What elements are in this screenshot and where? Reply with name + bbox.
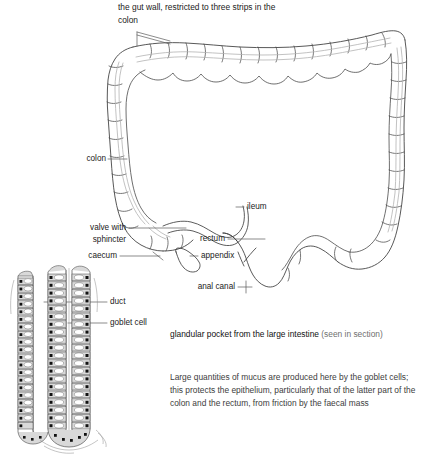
label-appendix: appendix [201,250,234,262]
appendix-structure [176,248,200,272]
label-colon: colon [58,153,106,165]
top-note-text: the gut wall, restricted to three strips… [118,1,288,28]
label-rectum: rectum [185,233,225,245]
label-goblet-cell: goblet cell [110,317,147,329]
gland-caption-dim: (seen in section) [321,329,382,339]
body-text: Large quantities of mucus are produced h… [170,371,420,411]
label-duct: duct [110,296,125,308]
label-valve-with-sphincter: valve with sphincter [48,222,126,245]
crypt-left [18,271,48,444]
gland-caption: glandular pocket from the large intestin… [170,328,420,341]
haustra-marks [107,33,406,281]
crypt-right [40,266,106,454]
label-anal-canal: anal canal [178,281,235,293]
gland-caption-main: glandular pocket from the large intestin… [170,329,321,339]
colon-inner-outline [126,54,392,270]
colon-outline [107,31,406,287]
label-ileum: ileum [247,201,267,213]
glandular-crypt-drawing [11,266,107,454]
rectum-anal-canal [238,248,256,266]
label-caecum: caecum [60,250,117,262]
